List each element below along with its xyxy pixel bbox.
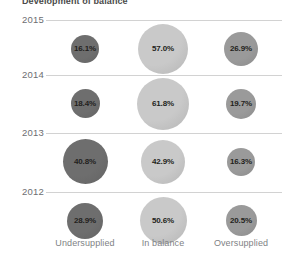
bubble-undersupplied-2012[interactable]: 28.9% [67,203,103,239]
category-axis: Undersupplied In balance Oversupplied [46,238,282,254]
bubble-oversupplied-2014[interactable]: 19.7% [226,89,256,119]
bubble-value: 16.1% [74,44,96,53]
bubble-value: 50.6% [152,216,174,225]
row-label-year: 2012 [22,186,44,197]
bubble-cell[interactable]: 42.9% [124,133,202,190]
bubble-cell[interactable]: 16.1% [46,20,124,77]
row-label-year: 2015 [22,14,44,25]
bubble-in-balance-2013[interactable]: 42.9% [141,140,185,184]
bubble-in-balance-2015[interactable]: 57.0% [138,24,188,74]
bubble-undersupplied-2014[interactable]: 18.4% [71,89,100,118]
bubble-value: 19.7% [230,99,252,108]
bubble-cell[interactable]: 16.3% [202,133,280,190]
bubble-value: 40.8% [74,157,96,166]
bubble-value: 61.8% [152,99,174,108]
axis-label-in-balance: In balance [124,238,202,248]
bubble-cell[interactable]: 26.9% [202,20,280,77]
row-label-year: 2014 [22,69,44,80]
bubble-value: 42.9% [152,157,174,166]
row-label-year: 2013 [22,127,44,138]
bubble-cell[interactable]: 57.0% [124,20,202,77]
bubble-cell[interactable]: 19.7% [202,75,280,132]
row-cells: 40.8% 42.9% 16.3% [46,133,282,190]
bubble-undersupplied-2015[interactable]: 16.1% [71,35,99,63]
bubble-oversupplied-2015[interactable]: 26.9% [224,32,258,66]
bubble-value: 20.5% [230,216,252,225]
bubble-undersupplied-2013[interactable]: 40.8% [63,139,108,184]
bubble-in-balance-2012[interactable]: 50.6% [140,197,187,244]
axis-label-undersupplied: Undersupplied [46,238,124,248]
chart-row-2013: 2013 40.8% 42.9% 16.3% [0,133,290,190]
bubble-chart: Development of balance 2015 16.1% 57.0% … [0,0,290,264]
bubble-value: 16.3% [230,157,252,166]
chart-title: Development of balance [22,0,128,6]
axis-label-oversupplied: Oversupplied [202,238,280,248]
bubble-value: 57.0% [152,44,174,53]
bubble-value: 18.4% [74,99,96,108]
bubble-value: 28.9% [74,216,96,225]
bubble-oversupplied-2013[interactable]: 16.3% [227,148,255,176]
bubble-in-balance-2014[interactable]: 61.8% [137,78,189,130]
bubble-oversupplied-2012[interactable]: 20.5% [226,205,257,236]
chart-row-2014: 2014 18.4% 61.8% 19.7% [0,75,290,132]
bubble-cell[interactable]: 18.4% [46,75,124,132]
bubble-cell[interactable]: 40.8% [46,133,124,190]
row-cells: 18.4% 61.8% 19.7% [46,75,282,132]
bubble-value: 26.9% [230,44,252,53]
bubble-cell[interactable]: 61.8% [124,75,202,132]
row-cells: 16.1% 57.0% 26.9% [46,20,282,77]
